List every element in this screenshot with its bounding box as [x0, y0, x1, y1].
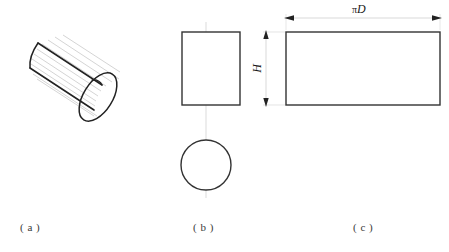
height-dimension-label: H — [250, 61, 265, 77]
width-dimension-label: πD — [352, 2, 366, 17]
front-view-rectangle — [182, 32, 240, 105]
height-arrow-down-icon — [263, 98, 268, 107]
height-dimension — [263, 30, 286, 107]
development-rectangle — [286, 32, 440, 105]
height-arrow-up-icon — [263, 30, 268, 39]
caption-panel-b: ( b ) — [193, 221, 214, 233]
width-arrow-right-icon — [432, 15, 442, 21]
orthographic-views — [181, 22, 240, 198]
cylinder-pictorial — [30, 35, 125, 128]
top-view-circle — [181, 140, 231, 190]
development-view — [284, 14, 442, 105]
diagram-svg — [0, 0, 449, 252]
width-arrow-left-icon — [284, 15, 294, 21]
caption-panel-c: ( c ) — [353, 221, 373, 233]
caption-panel-a: ( a ) — [20, 221, 40, 233]
figure-canvas: H πD ( a ) ( b ) ( c ) — [0, 0, 449, 252]
diameter-symbol: D — [357, 2, 366, 16]
cylinder-front-end-ellipse — [71, 66, 124, 127]
